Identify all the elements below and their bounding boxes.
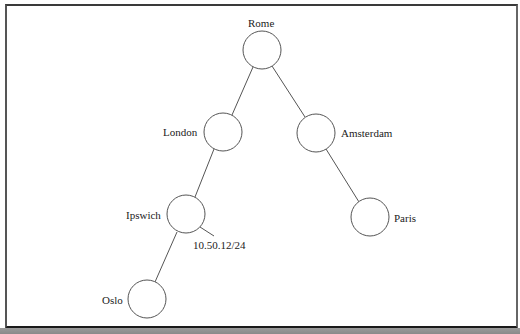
node-oslo <box>128 280 166 318</box>
edge-rome-london <box>232 67 253 115</box>
edge-rome-amsterdam <box>272 66 305 117</box>
edge-london-ipswich <box>195 149 214 197</box>
edge-ipswich-oslo <box>155 232 177 282</box>
node-label-rome: Rome <box>248 17 274 29</box>
node-label-oslo: Oslo <box>102 294 123 306</box>
node-label-paris: Paris <box>394 212 416 224</box>
edge-amsterdam-paris <box>326 149 359 202</box>
ipswich-subnet-label: 10.50.12/24 <box>193 239 246 251</box>
node-ipswich <box>167 195 205 233</box>
node-label-amsterdam: Amsterdam <box>341 127 392 139</box>
network-graph <box>0 0 520 334</box>
ipswich-subnet-stub-line <box>200 227 214 236</box>
node-london <box>204 113 242 151</box>
node-amsterdam <box>297 114 335 152</box>
node-rome <box>243 31 281 69</box>
node-label-london: London <box>163 126 197 138</box>
node-label-ipswich: Ipswich <box>126 209 161 221</box>
diagram-canvas: 10.50.12/24RomeLondonAmsterdamIpswichPar… <box>0 0 520 334</box>
node-paris <box>351 198 389 236</box>
